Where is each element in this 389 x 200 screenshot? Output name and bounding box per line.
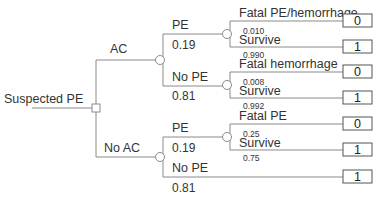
- root-label: Suspected PE: [4, 92, 83, 106]
- decision-tree: Suspected PE AC PE 0.19 Fatal PE/hemorrh…: [0, 0, 389, 200]
- outcome-prob: 0.75: [243, 153, 260, 163]
- terminal-value: 0: [354, 65, 361, 79]
- ac-pe-prob: 0.19: [172, 38, 196, 52]
- noac-pe-chance-node: [223, 133, 232, 142]
- outcome-label: Survive: [239, 33, 281, 47]
- ac-chance-node: [156, 56, 165, 65]
- outcome-label: Survive: [239, 136, 281, 150]
- terminal-value: 0: [354, 14, 361, 28]
- outcome-label: Fatal PE/hemorrhage: [239, 6, 358, 20]
- outcome-label: Fatal hemorrhage: [239, 57, 338, 71]
- terminal-value: 1: [354, 143, 361, 157]
- terminal-value: 1: [354, 40, 361, 54]
- noac-nope-label: No PE: [172, 161, 208, 175]
- ac-pe-chance-node: [223, 30, 232, 39]
- noac-pe-prob: 0.19: [172, 141, 196, 155]
- noac-nope-prob: 0.81: [172, 181, 196, 195]
- ac-nope-prob: 0.81: [172, 89, 196, 103]
- noac-chance-node: [156, 153, 165, 162]
- noac-pe-label: PE: [172, 121, 189, 135]
- ac-label: AC: [110, 42, 127, 56]
- terminal-value: 1: [354, 91, 361, 105]
- decision-node-square: [92, 104, 100, 112]
- outcome-label: Fatal PE: [239, 109, 287, 123]
- ac-nope-label: No PE: [172, 70, 208, 84]
- outcome-label: Survive: [239, 84, 281, 98]
- noac-label: No AC: [104, 141, 140, 155]
- terminal-value: 0: [354, 117, 361, 131]
- ac-nope-chance-node: [223, 81, 232, 90]
- ac-pe-label: PE: [172, 18, 189, 32]
- terminal-value: 1: [354, 170, 361, 184]
